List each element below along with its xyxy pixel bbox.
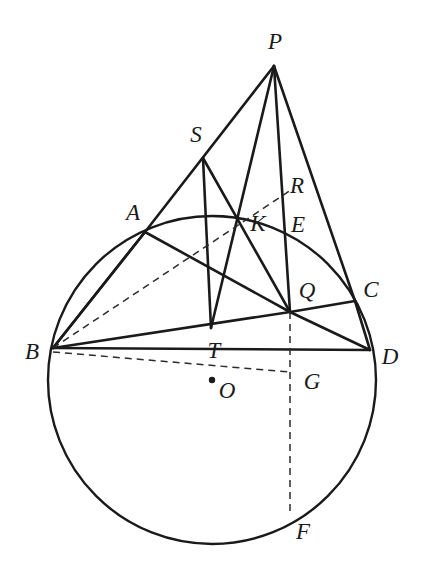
segment-B-to-A-upper: [53, 232, 145, 348]
point-label-Q: Q: [299, 279, 316, 302]
point-label-O: O: [219, 379, 236, 402]
point-label-K: K: [250, 212, 265, 235]
geometry-canvas: [0, 0, 426, 575]
solid-lines-layer: [53, 66, 370, 350]
dashed-segment-B-to-G-through-O: [53, 352, 290, 372]
dashed-lines-layer: [53, 188, 294, 516]
point-label-R: R: [290, 174, 304, 197]
segment-B-to-Q: [53, 312, 290, 348]
point-label-S: S: [190, 123, 202, 146]
point-label-A: A: [126, 201, 140, 224]
point-label-G: G: [304, 370, 321, 393]
point-label-F: F: [296, 520, 310, 543]
segment-Q-to-D: [290, 312, 370, 350]
point-label-P: P: [268, 30, 282, 53]
point-dots-layer: [209, 377, 215, 383]
point-label-D: D: [382, 345, 399, 368]
segment-S-to-T: [203, 158, 211, 328]
point-dot-O: [209, 377, 215, 383]
point-label-C: C: [363, 278, 378, 301]
point-label-B: B: [25, 340, 39, 363]
point-label-T: T: [208, 339, 221, 362]
geometry-figure: PSARKEQCBTDGOF: [0, 0, 426, 575]
point-label-E: E: [291, 213, 305, 236]
segment-Q-to-C: [290, 301, 355, 312]
